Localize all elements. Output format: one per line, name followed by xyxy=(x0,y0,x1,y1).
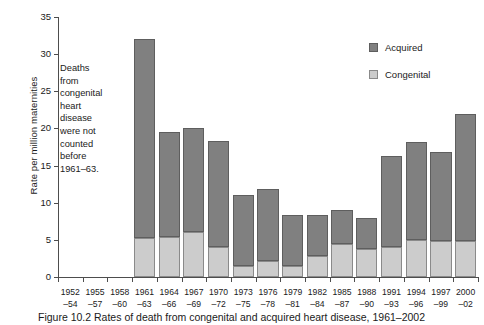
bar-group[interactable] xyxy=(159,132,180,277)
bar-segment-acquired[interactable] xyxy=(381,156,402,247)
bar-group[interactable] xyxy=(282,215,303,277)
y-tick-mark xyxy=(54,203,58,204)
bar-group[interactable] xyxy=(307,215,328,277)
legend-label: Congenital xyxy=(385,69,430,80)
x-tick-mark xyxy=(58,277,59,282)
x-tick-label: 1994–96 xyxy=(404,287,429,310)
bar-segment-acquired[interactable] xyxy=(307,215,328,256)
x-tick-mark xyxy=(206,277,207,282)
x-tick-label: 1955–57 xyxy=(83,287,108,310)
x-tick-label: 1973–75 xyxy=(231,287,256,310)
x-tick-mark xyxy=(107,277,108,282)
bar-group[interactable] xyxy=(257,189,278,277)
legend-label: Acquired xyxy=(385,42,423,53)
bar-segment-congenital[interactable] xyxy=(208,247,229,277)
bar-segment-acquired[interactable] xyxy=(159,132,180,237)
x-tick-mark xyxy=(379,277,380,282)
y-tick-mark xyxy=(54,17,58,18)
annotation-line: from xyxy=(60,75,102,88)
bar-segment-acquired[interactable] xyxy=(134,39,155,238)
x-tick-mark xyxy=(478,277,479,282)
bar-segment-acquired[interactable] xyxy=(406,142,427,240)
bar-segment-congenital[interactable] xyxy=(159,237,180,277)
x-tick-label: 1985–87 xyxy=(330,287,355,310)
x-tick-mark xyxy=(305,277,306,282)
x-tick-label: 1967–69 xyxy=(182,287,207,310)
y-tick-label: 25 xyxy=(40,85,51,96)
x-tick-mark xyxy=(354,277,355,282)
bar-segment-acquired[interactable] xyxy=(183,128,204,232)
bar-segment-acquired[interactable] xyxy=(331,210,352,244)
bar-segment-acquired[interactable] xyxy=(430,152,451,241)
x-tick-mark xyxy=(404,277,405,282)
chart-annotation: Deaths from congenital heart disease wer… xyxy=(60,62,102,175)
bar-segment-congenital[interactable] xyxy=(257,261,278,277)
annotation-line: disease xyxy=(60,112,102,125)
y-tick-mark xyxy=(54,166,58,167)
y-tick-mark xyxy=(54,128,58,129)
x-tick-label: 1988–90 xyxy=(354,287,379,310)
annotation-line: 1961–63. xyxy=(60,163,102,176)
y-tick-label: 0 xyxy=(46,271,51,282)
x-tick-mark xyxy=(83,277,84,282)
bar-segment-congenital[interactable] xyxy=(430,241,451,277)
bar-segment-congenital[interactable] xyxy=(183,232,204,277)
bar-segment-acquired[interactable] xyxy=(208,141,229,247)
bar-segment-acquired[interactable] xyxy=(233,195,254,266)
y-tick-label: 35 xyxy=(40,11,51,22)
x-tick-mark xyxy=(182,277,183,282)
bar-group[interactable] xyxy=(406,142,427,277)
x-tick-mark xyxy=(157,277,158,282)
bar-group[interactable] xyxy=(233,195,254,277)
bar-segment-congenital[interactable] xyxy=(331,244,352,277)
x-tick-label: 1970–72 xyxy=(206,287,231,310)
bar-segment-congenital[interactable] xyxy=(307,256,328,277)
bar-segment-congenital[interactable] xyxy=(455,241,476,277)
x-tick-mark xyxy=(453,277,454,282)
x-tick-label: 1991–93 xyxy=(379,287,404,310)
y-tick-label: 20 xyxy=(40,122,51,133)
y-tick-label: 30 xyxy=(40,48,51,59)
x-tick-mark xyxy=(132,277,133,282)
chart-legend: Acquired Congenital xyxy=(369,42,430,96)
x-tick-mark xyxy=(280,277,281,282)
bar-segment-acquired[interactable] xyxy=(282,215,303,266)
figure-caption: Figure 10.2 Rates of death from congenit… xyxy=(38,311,478,325)
y-tick-label: 15 xyxy=(40,160,51,171)
bar-group[interactable] xyxy=(455,114,476,277)
bar-segment-congenital[interactable] xyxy=(134,238,155,277)
bar-segment-acquired[interactable] xyxy=(455,114,476,242)
y-tick-label: 10 xyxy=(40,197,51,208)
bar-group[interactable] xyxy=(331,210,352,277)
bar-group[interactable] xyxy=(356,218,377,277)
x-tick-mark xyxy=(231,277,232,282)
bar-group[interactable] xyxy=(381,156,402,277)
bar-group[interactable] xyxy=(183,128,204,277)
bar-segment-congenital[interactable] xyxy=(381,247,402,277)
x-tick-label: 1958–60 xyxy=(107,287,132,310)
bar-segment-acquired[interactable] xyxy=(257,189,278,261)
x-tick-label: 2000–02 xyxy=(453,287,478,310)
y-tick-mark xyxy=(54,91,58,92)
bar-group[interactable] xyxy=(430,152,451,277)
y-tick-mark xyxy=(54,240,58,241)
bar-segment-acquired[interactable] xyxy=(356,218,377,249)
annotation-line: Deaths xyxy=(60,62,102,75)
x-tick-label: 1952–54 xyxy=(58,287,83,310)
bar-segment-congenital[interactable] xyxy=(356,249,377,277)
bar-segment-congenital[interactable] xyxy=(406,240,427,277)
annotation-line: before xyxy=(60,150,102,163)
x-tick-mark xyxy=(330,277,331,282)
x-tick-label: 1982–84 xyxy=(305,287,330,310)
x-axis-line xyxy=(58,277,478,278)
x-tick-label: 1976–78 xyxy=(256,287,281,310)
x-tick-mark xyxy=(429,277,430,282)
bar-group[interactable] xyxy=(208,141,229,277)
x-tick-mark xyxy=(256,277,257,282)
y-axis-line xyxy=(58,17,59,278)
bar-segment-congenital[interactable] xyxy=(233,266,254,277)
bar-segment-congenital[interactable] xyxy=(282,266,303,277)
bar-group[interactable] xyxy=(134,39,155,277)
annotation-line: were not xyxy=(60,125,102,138)
legend-swatch-icon xyxy=(369,43,378,52)
